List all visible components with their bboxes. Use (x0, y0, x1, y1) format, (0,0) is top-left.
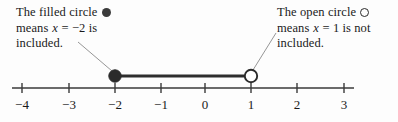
tick-label: −4 (5, 97, 39, 113)
open-endpoint-marker (245, 70, 257, 82)
tick-label: 0 (188, 97, 222, 113)
annotation-text: = −2 is (58, 21, 97, 35)
annotation-line-1: The open circle (277, 5, 371, 21)
tick-label: 2 (280, 97, 314, 113)
tick-label: 1 (234, 97, 268, 113)
open-circle-annotation: The open circle means x = 1 is not inclu… (277, 5, 371, 52)
number-line-figure: −4 −3 −2 −1 0 1 2 3 The filled circle me… (0, 0, 398, 122)
annotation-text: included. (277, 36, 324, 50)
annotation-text: The open circle (277, 5, 356, 19)
annotation-line-1: The filled circle (16, 5, 111, 21)
tick-label: −3 (52, 97, 86, 113)
annotation-text: means (277, 21, 313, 35)
annotation-text: means (16, 21, 52, 35)
tick-label: 3 (327, 97, 361, 113)
tick-label: −1 (144, 97, 178, 113)
tick-label: −2 (98, 97, 132, 113)
annotation-text: = 1 is not (319, 21, 370, 35)
filled-endpoint-marker (109, 70, 121, 82)
open-circle-glyph (360, 8, 369, 17)
annotation-line-2: means x = −2 is (16, 21, 111, 37)
annotation-text: The filled circle (16, 5, 98, 19)
filled-circle-glyph (102, 8, 111, 17)
annotation-line-3: included. (16, 36, 111, 52)
annotation-line-3: included. (277, 36, 371, 52)
filled-circle-annotation: The filled circle means x = −2 is includ… (16, 5, 111, 52)
annotation-text: included. (16, 36, 63, 50)
annotation-line-2: means x = 1 is not (277, 21, 371, 37)
